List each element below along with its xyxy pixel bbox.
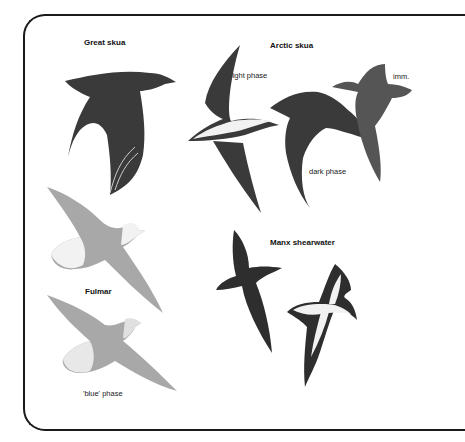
- label-great-skua: Great skua: [84, 38, 125, 47]
- great-skua-illustration: [60, 65, 190, 205]
- fulmar-blue-phase-illustration: [45, 293, 180, 393]
- arctic-skua-immature-illustration: [330, 60, 420, 185]
- manx-shearwater-underside-illustration: [285, 262, 360, 392]
- manx-shearwater-upperside-illustration: [214, 228, 289, 358]
